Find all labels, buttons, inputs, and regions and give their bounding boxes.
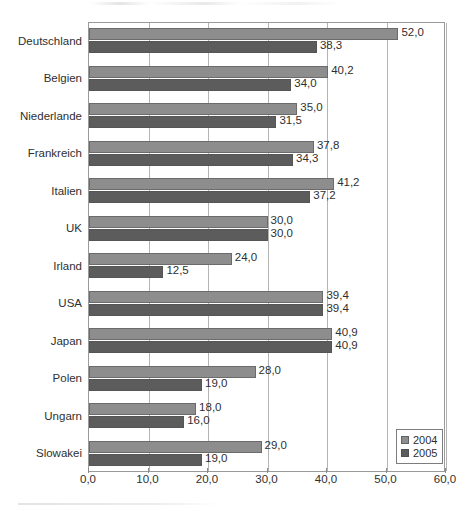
x-tick-label: 60,0 — [434, 473, 456, 485]
category-label-uk: UK — [0, 221, 82, 235]
bar-2005-uk — [89, 229, 268, 241]
bar-group: 24,012,5 — [89, 248, 444, 286]
chart-legend: 20042005 — [396, 429, 443, 464]
bar-2005-japan — [89, 341, 332, 353]
x-tick-label: 10,0 — [136, 473, 158, 485]
bar-2005-irland — [89, 266, 163, 278]
bar-value-label: 31,5 — [279, 114, 301, 127]
bar-2005-ungarn — [89, 416, 184, 428]
bar-value-label: 28,0 — [259, 364, 281, 377]
bar-group: 40,940,9 — [89, 323, 444, 361]
bar-value-label: 24,0 — [235, 251, 257, 264]
bar-2004-ungarn — [89, 403, 196, 415]
bar-2004-slowakei — [89, 441, 262, 453]
bar-2004-niederlande — [89, 103, 297, 115]
bar-value-label: 37,2 — [313, 189, 335, 202]
bar-value-label: 40,9 — [335, 339, 357, 352]
gridline — [446, 23, 447, 471]
bar-value-label: 12,5 — [166, 264, 188, 277]
category-label-slowakei: Slowakei — [0, 446, 82, 460]
bar-value-label: 34,0 — [294, 77, 316, 90]
bar-group: 35,031,5 — [89, 98, 444, 136]
legend-item-2004[interactable]: 2004 — [401, 434, 437, 446]
bar-group: 40,234,0 — [89, 61, 444, 99]
bar-2005-polen — [89, 379, 202, 391]
bar-2004-frankreich — [89, 141, 314, 153]
bar-group: 37,834,3 — [89, 136, 444, 174]
category-axis-labels: DeutschlandBelgienNiederlandeFrankreichI… — [0, 22, 82, 472]
category-label-frankreich: Frankreich — [0, 146, 82, 160]
x-tick-label: 40,0 — [315, 473, 337, 485]
bar-value-label: 18,0 — [199, 401, 221, 414]
category-label-irland: Irland — [0, 259, 82, 273]
bar-value-label: 52,0 — [401, 26, 423, 39]
bar-2004-italien — [89, 178, 334, 190]
bar-group: 28,019,0 — [89, 361, 444, 399]
bar-group: 52,038,3 — [89, 23, 444, 61]
x-tick-label: 50,0 — [374, 473, 396, 485]
bar-2005-niederlande — [89, 116, 276, 128]
legend-item-2005[interactable]: 2005 — [401, 447, 437, 459]
plot-area: 52,038,340,234,035,031,537,834,341,237,2… — [88, 22, 445, 472]
bar-value-label: 37,8 — [317, 139, 339, 152]
category-label-japan: Japan — [0, 334, 82, 348]
bar-2005-frankreich — [89, 154, 293, 166]
bar-group: 41,237,2 — [89, 173, 444, 211]
bar-2004-polen — [89, 366, 256, 378]
bar-chart: DeutschlandBelgienNiederlandeFrankreichI… — [0, 0, 466, 511]
bar-2004-japan — [89, 328, 332, 340]
bar-2004-uk — [89, 216, 268, 228]
bar-value-label: 40,2 — [331, 64, 353, 77]
bar-value-label: 40,9 — [335, 326, 357, 339]
legend-swatch-icon — [401, 449, 409, 457]
scan-artifact-top — [90, 2, 340, 5]
bar-value-label: 19,0 — [205, 377, 227, 390]
bar-value-label: 30,0 — [271, 227, 293, 240]
category-label-deutschland: Deutschland — [0, 34, 82, 48]
legend-label: 2004 — [413, 434, 437, 446]
bar-value-label: 39,4 — [326, 289, 348, 302]
bar-2004-usa — [89, 291, 323, 303]
bar-2004-deutschland — [89, 28, 398, 40]
scan-artifact-bottom — [18, 503, 218, 505]
bar-group: 18,016,0 — [89, 398, 444, 436]
x-tick-label: 20,0 — [196, 473, 218, 485]
bar-value-label: 19,0 — [205, 452, 227, 465]
legend-label: 2005 — [413, 447, 437, 459]
bar-group: 30,030,0 — [89, 211, 444, 249]
bar-value-label: 41,2 — [337, 176, 359, 189]
bar-2005-slowakei — [89, 454, 202, 466]
bar-value-label: 16,0 — [187, 414, 209, 427]
category-label-belgien: Belgien — [0, 71, 82, 85]
bar-2004-belgien — [89, 66, 328, 78]
bar-2005-deutschland — [89, 41, 317, 53]
bar-value-label: 38,3 — [320, 39, 342, 52]
x-axis-tick-labels: 0,010,020,030,040,050,060,0 — [88, 473, 445, 493]
bar-2005-usa — [89, 304, 323, 316]
category-label-ungarn: Ungarn — [0, 409, 82, 423]
category-label-usa: USA — [0, 296, 82, 310]
category-label-niederlande: Niederlande — [0, 109, 82, 123]
bar-value-label: 30,0 — [271, 214, 293, 227]
category-label-polen: Polen — [0, 371, 82, 385]
legend-swatch-icon — [401, 436, 409, 444]
bar-value-label: 39,4 — [326, 302, 348, 315]
bar-2005-italien — [89, 191, 310, 203]
x-tick-label: 30,0 — [255, 473, 277, 485]
category-label-italien: Italien — [0, 184, 82, 198]
bar-value-label: 35,0 — [300, 101, 322, 114]
bar-group: 39,439,4 — [89, 286, 444, 324]
x-tick-label: 0,0 — [80, 473, 96, 485]
bar-2004-irland — [89, 253, 232, 265]
bar-rows: 52,038,340,234,035,031,537,834,341,237,2… — [89, 23, 444, 471]
bar-value-label: 29,0 — [265, 439, 287, 452]
bar-2005-belgien — [89, 79, 291, 91]
bar-value-label: 34,3 — [296, 152, 318, 165]
